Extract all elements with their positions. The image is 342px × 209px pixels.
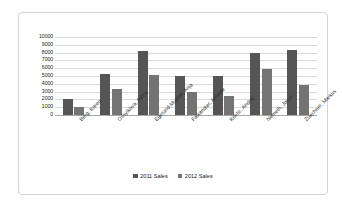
x-axis-tick-label: Berg, Karen — [78, 118, 82, 122]
y-axis-tick-label: 10000 — [21, 34, 53, 39]
bar-1 — [112, 89, 122, 115]
bar-1 — [149, 75, 159, 115]
x-axis-tick-label: Nemeth, Jorun — [265, 118, 269, 122]
y-axis-tick-label: 0 — [21, 112, 53, 117]
x-axis-tick-label: Kostic, Andrej — [228, 118, 232, 122]
y-axis-tick-label: 6000 — [21, 66, 53, 71]
y-axis-tick-label: 1000 — [21, 105, 53, 110]
legend-item[interactable]: 2011 Sales — [133, 173, 168, 179]
chart-plot-wrapper: 1000090008000700060005000400030002000100… — [19, 13, 327, 194]
y-axis-tick-label: 5000 — [21, 73, 53, 78]
x-axis: Berg, KarenOvsyikova, PetraEgelund-Muell… — [55, 116, 317, 166]
legend-label: 2011 Sales — [140, 173, 168, 179]
chart-legend: 2011 Sales2012 Sales — [19, 173, 327, 179]
bar-0 — [138, 51, 148, 115]
y-axis-tick-label: 2000 — [21, 97, 53, 102]
y-axis-tick-label: 4000 — [21, 81, 53, 86]
x-axis-tick-label: Ovsyikova, Petra — [116, 118, 120, 122]
y-axis: 1000090008000700060005000400030002000100… — [21, 37, 53, 115]
legend-swatch-icon — [133, 174, 138, 179]
legend-item[interactable]: 2012 Sales — [178, 173, 213, 179]
y-axis-tick-label: 8000 — [21, 50, 53, 55]
bar-0 — [63, 99, 73, 115]
bar-0 — [287, 50, 297, 115]
x-axis-tick-label: Zuechner, Markus — [303, 118, 307, 122]
chart-frame: 1000090008000700060005000400030002000100… — [18, 12, 328, 195]
legend-label: 2012 Sales — [185, 173, 213, 179]
bar-group — [55, 37, 92, 115]
bar-1 — [262, 69, 272, 115]
bar-0 — [100, 74, 110, 115]
x-axis-tick-label: Egelund-Mueller, Anja — [153, 118, 157, 122]
legend-swatch-icon — [178, 174, 183, 179]
y-axis-tick-label: 7000 — [21, 58, 53, 63]
bar-0 — [250, 53, 260, 115]
x-axis-tick-label: Falxandier, Antoine — [190, 118, 194, 122]
y-axis-tick-label: 3000 — [21, 89, 53, 94]
y-axis-tick-label: 9000 — [21, 42, 53, 47]
bar-1 — [299, 85, 309, 115]
